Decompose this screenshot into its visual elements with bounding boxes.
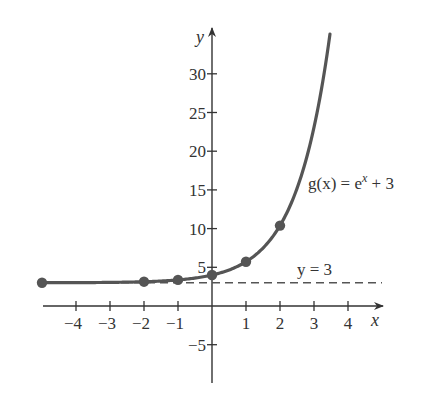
y-axis-label: y bbox=[194, 27, 204, 47]
y-tick-label: −5 bbox=[188, 336, 206, 355]
curve-label-tail: + 3 bbox=[367, 174, 394, 193]
x-tick-label: 2 bbox=[276, 314, 285, 333]
asymptote-label: y = 3 bbox=[297, 260, 332, 279]
y-tick-label: 30 bbox=[189, 65, 206, 84]
curve-label-main: g(x) = e bbox=[308, 174, 362, 193]
x-tick-label: −2 bbox=[132, 314, 150, 333]
x-tick-label: −1 bbox=[166, 314, 184, 333]
x-tick-label: 1 bbox=[242, 314, 251, 333]
data-point bbox=[173, 275, 183, 285]
data-point bbox=[139, 276, 149, 286]
curve-g-of-x bbox=[42, 34, 330, 283]
y-tick-label: 20 bbox=[189, 142, 206, 161]
y-tick-label: 15 bbox=[189, 181, 206, 200]
data-points bbox=[37, 220, 285, 288]
curve-label: g(x) = ex + 3 bbox=[308, 171, 394, 193]
x-axis-label: x bbox=[370, 310, 379, 330]
data-point bbox=[37, 278, 47, 288]
chart: −4−3−2−11234 −551015202530 x y g(x) = ex… bbox=[0, 0, 435, 420]
data-point bbox=[275, 220, 285, 230]
x-tick-label: −4 bbox=[64, 314, 83, 333]
x-tick-label: −3 bbox=[98, 314, 116, 333]
y-tick-label: 5 bbox=[198, 258, 207, 277]
x-tick-label: 4 bbox=[344, 314, 353, 333]
data-point bbox=[207, 270, 217, 280]
y-tick-label: 25 bbox=[189, 104, 206, 123]
x-tick-label: 3 bbox=[310, 314, 319, 333]
y-tick-label: 10 bbox=[189, 220, 206, 239]
data-point bbox=[241, 257, 251, 267]
